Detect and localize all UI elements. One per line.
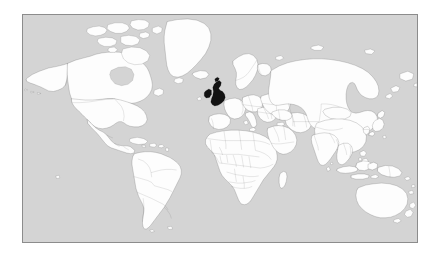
map-frame <box>22 14 418 243</box>
jamaica-island <box>142 145 146 147</box>
taiwan-island <box>383 135 386 138</box>
java-island <box>351 174 369 179</box>
world-map-svg <box>23 15 417 242</box>
galapagos-islands <box>56 175 60 178</box>
world-map-figure <box>0 0 439 264</box>
philippines-island-small <box>359 158 362 161</box>
vanuatu-islands <box>412 184 415 187</box>
